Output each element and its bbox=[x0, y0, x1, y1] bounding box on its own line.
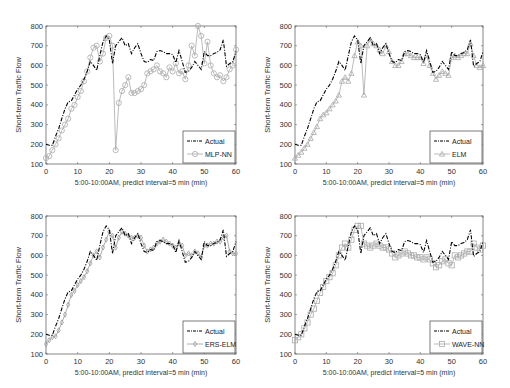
y-tick-label: 300 bbox=[30, 120, 43, 129]
x-axis-label: 5:00-10:00AM, predict interval=5 min (mi… bbox=[75, 369, 207, 377]
x-tick-label: 10 bbox=[73, 357, 81, 366]
x-axis-label: 5:00-10:00AM, predict interval=5 min (mi… bbox=[323, 369, 455, 377]
legend-label-actual: Actual bbox=[452, 138, 472, 145]
y-tick-label: 500 bbox=[30, 81, 43, 90]
x-tick-label: 30 bbox=[385, 167, 393, 176]
y-tick-label: 600 bbox=[30, 251, 43, 260]
chart-svg: 01020304050601002003004005006007008005:0… bbox=[249, 190, 510, 388]
y-tick-label: 700 bbox=[279, 231, 292, 240]
legend-label-actual: Actual bbox=[205, 328, 225, 335]
y-tick-label: 300 bbox=[279, 310, 292, 319]
y-tick-label: 400 bbox=[279, 100, 292, 109]
legend-label-actual: Actual bbox=[205, 138, 225, 145]
y-tick-label: 400 bbox=[30, 100, 43, 109]
x-tick-label: 0 bbox=[293, 167, 297, 176]
legend: ActualERS-ELM bbox=[183, 321, 236, 353]
y-tick-label: 400 bbox=[279, 290, 292, 299]
y-tick-label: 400 bbox=[30, 290, 43, 299]
y-tick-label: 200 bbox=[279, 330, 292, 339]
y-tick-label: 800 bbox=[279, 212, 292, 221]
x-tick-label: 0 bbox=[293, 357, 297, 366]
x-tick-label: 20 bbox=[353, 357, 361, 366]
y-tick-label: 700 bbox=[279, 41, 292, 50]
legend-label-model: ELM bbox=[452, 151, 467, 158]
y-tick-label: 600 bbox=[30, 61, 43, 70]
x-tick-label: 60 bbox=[232, 167, 240, 176]
x-tick-label: 60 bbox=[479, 167, 487, 176]
y-tick-label: 100 bbox=[279, 160, 292, 169]
x-tick-label: 0 bbox=[44, 357, 48, 366]
x-tick-label: 40 bbox=[416, 357, 424, 366]
chart-ers-elm: 01020304050601002003004005006007008005:0… bbox=[0, 190, 255, 388]
chart-elm: 01020304050601002003004005006007008005:0… bbox=[249, 0, 510, 194]
y-tick-label: 200 bbox=[30, 330, 43, 339]
chart-svg: 01020304050601002003004005006007008005:0… bbox=[0, 0, 255, 194]
x-tick-label: 60 bbox=[479, 357, 487, 366]
x-tick-label: 50 bbox=[200, 167, 208, 176]
x-tick-label: 40 bbox=[416, 167, 424, 176]
legend-label-actual: Actual bbox=[452, 328, 472, 335]
x-tick-label: 30 bbox=[137, 357, 145, 366]
x-tick-label: 40 bbox=[168, 167, 176, 176]
y-tick-label: 200 bbox=[30, 140, 43, 149]
y-tick-label: 600 bbox=[279, 61, 292, 70]
legend-label-model: WAVE-NN bbox=[452, 341, 484, 348]
y-tick-label: 800 bbox=[30, 22, 43, 31]
x-tick-label: 30 bbox=[137, 167, 145, 176]
y-axis-label: Short-term Traffic Flow bbox=[263, 247, 272, 323]
x-tick-label: 20 bbox=[353, 167, 361, 176]
y-tick-label: 100 bbox=[279, 350, 292, 359]
y-axis-label: Short-term Traffic Flow bbox=[263, 57, 272, 133]
y-tick-label: 500 bbox=[279, 271, 292, 280]
x-tick-label: 10 bbox=[322, 357, 330, 366]
x-tick-label: 50 bbox=[447, 167, 455, 176]
chart-wave-nn: 01020304050601002003004005006007008005:0… bbox=[249, 190, 510, 388]
legend: ActualWAVE-NN bbox=[430, 321, 484, 353]
y-tick-label: 300 bbox=[279, 120, 292, 129]
x-tick-label: 30 bbox=[385, 357, 393, 366]
x-tick-label: 20 bbox=[105, 357, 113, 366]
y-tick-label: 500 bbox=[30, 271, 43, 280]
x-tick-label: 10 bbox=[73, 167, 81, 176]
x-tick-label: 20 bbox=[105, 167, 113, 176]
y-tick-label: 100 bbox=[30, 160, 43, 169]
x-axis-label: 5:00-10:00AM, predict interval=5 min (mi… bbox=[75, 179, 207, 187]
y-axis-label: Short-term Traffic Flow bbox=[14, 247, 23, 323]
x-tick-label: 0 bbox=[44, 167, 48, 176]
legend: ActualELM bbox=[430, 131, 482, 163]
y-tick-label: 600 bbox=[279, 251, 292, 260]
y-tick-label: 500 bbox=[279, 81, 292, 90]
y-tick-label: 800 bbox=[30, 212, 43, 221]
legend: ActualMLP-NN bbox=[183, 131, 235, 163]
x-axis-label: 5:00-10:00AM, predict interval=5 min (mi… bbox=[323, 179, 455, 187]
y-axis-label: Short-term Traffic Flow bbox=[14, 57, 23, 133]
y-tick-label: 100 bbox=[30, 350, 43, 359]
y-tick-label: 800 bbox=[279, 22, 292, 31]
x-tick-label: 10 bbox=[322, 167, 330, 176]
y-tick-label: 200 bbox=[279, 140, 292, 149]
y-tick-label: 700 bbox=[30, 231, 43, 240]
x-tick-label: 50 bbox=[200, 357, 208, 366]
x-tick-label: 40 bbox=[168, 357, 176, 366]
legend-label-model: ERS-ELM bbox=[205, 341, 236, 348]
chart-mlp-nn: 01020304050601002003004005006007008005:0… bbox=[0, 0, 255, 194]
x-tick-label: 60 bbox=[232, 357, 240, 366]
x-tick-label: 50 bbox=[447, 357, 455, 366]
y-tick-label: 700 bbox=[30, 41, 43, 50]
y-tick-label: 300 bbox=[30, 310, 43, 319]
legend-label-model: MLP-NN bbox=[205, 151, 232, 158]
chart-svg: 01020304050601002003004005006007008005:0… bbox=[0, 190, 255, 388]
chart-svg: 01020304050601002003004005006007008005:0… bbox=[249, 0, 510, 194]
